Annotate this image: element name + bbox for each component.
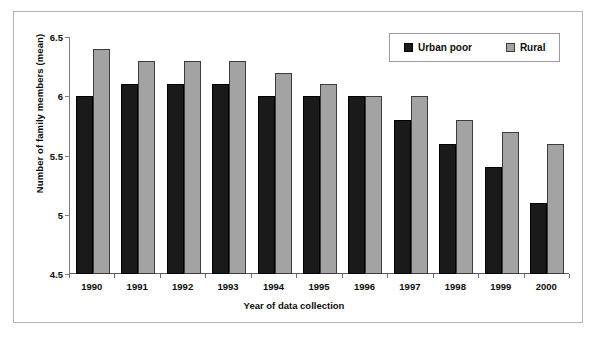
x-axis-tick-mark bbox=[524, 274, 525, 278]
bar-rural bbox=[547, 144, 564, 274]
bar-series-container bbox=[70, 37, 569, 274]
bar-rural bbox=[229, 61, 246, 274]
bar-urban-poor bbox=[439, 144, 456, 274]
bar-urban-poor bbox=[348, 96, 365, 274]
x-axis-tick-mark bbox=[69, 274, 70, 278]
x-axis-tick-mark bbox=[342, 274, 343, 278]
x-axis-tick-mark bbox=[296, 274, 297, 278]
bar-group bbox=[348, 37, 382, 274]
bar-urban-poor bbox=[121, 84, 138, 274]
legend-swatch-icon bbox=[506, 43, 515, 52]
x-axis-tick-label: 2000 bbox=[516, 281, 576, 292]
bar-group bbox=[212, 37, 246, 274]
x-axis-tick-mark bbox=[251, 274, 252, 278]
bar-urban-poor bbox=[303, 96, 320, 274]
bar-urban-poor bbox=[258, 96, 275, 274]
bar-group bbox=[394, 37, 428, 274]
bar-rural bbox=[93, 49, 110, 274]
x-axis-tick-mark bbox=[387, 274, 388, 278]
bar-group bbox=[121, 37, 155, 274]
x-axis-tick-mark bbox=[569, 274, 570, 278]
bar-urban-poor bbox=[212, 84, 229, 274]
y-axis-tick-label: 5.5 bbox=[27, 150, 63, 161]
bar-rural bbox=[456, 120, 473, 274]
bar-rural bbox=[184, 61, 201, 274]
y-axis-tick-label: 5 bbox=[27, 209, 63, 220]
bar-rural bbox=[320, 84, 337, 274]
y-axis-tick-label: 4.5 bbox=[27, 269, 63, 280]
bar-group bbox=[530, 37, 564, 274]
bar-group bbox=[258, 37, 292, 274]
x-axis-tick-mark bbox=[160, 274, 161, 278]
bar-rural bbox=[275, 73, 292, 274]
plot-area: 4.555.566.5 1990199119921993199419951996… bbox=[69, 37, 569, 274]
bar-rural bbox=[365, 96, 382, 274]
legend-label: Rural bbox=[520, 42, 546, 53]
y-axis-tick-label: 6 bbox=[27, 91, 63, 102]
x-axis-tick-mark bbox=[478, 274, 479, 278]
bar-rural bbox=[138, 61, 155, 274]
x-axis-tick-mark bbox=[114, 274, 115, 278]
legend-label: Urban poor bbox=[418, 42, 472, 53]
bar-rural bbox=[502, 132, 519, 274]
legend-swatch-icon bbox=[404, 43, 413, 52]
chart-legend: Urban poorRural bbox=[389, 33, 560, 62]
bar-group bbox=[485, 37, 519, 274]
bar-group bbox=[439, 37, 473, 274]
bar-urban-poor bbox=[530, 203, 547, 274]
y-axis-title: Number of family members (mean) bbox=[34, 29, 45, 199]
bar-rural bbox=[411, 96, 428, 274]
bar-group bbox=[76, 37, 110, 274]
chart-figure: Number of family members (mean) Year of … bbox=[13, 11, 583, 323]
bar-group bbox=[167, 37, 201, 274]
bar-urban-poor bbox=[167, 84, 184, 274]
y-axis-tick-label: 6.5 bbox=[27, 32, 63, 43]
x-axis-tick-mark bbox=[205, 274, 206, 278]
bar-urban-poor bbox=[76, 96, 93, 274]
x-axis-tick-mark bbox=[433, 274, 434, 278]
legend-item: Urban poor bbox=[404, 42, 472, 53]
legend-item: Rural bbox=[506, 42, 546, 53]
x-axis-title: Year of data collection bbox=[69, 300, 519, 311]
bar-urban-poor bbox=[394, 120, 411, 274]
bar-group bbox=[303, 37, 337, 274]
bar-urban-poor bbox=[485, 167, 502, 274]
